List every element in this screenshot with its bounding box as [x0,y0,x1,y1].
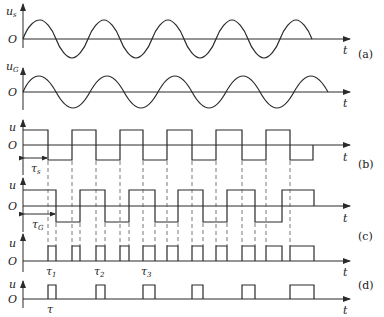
panel-label-b: (b) [358,158,374,171]
time-label-d: t [343,304,348,317]
panel-a-us-axes [23,4,350,48]
ug-axis-label: uG [6,60,19,74]
origin-label-b2: O [8,200,17,213]
u-axis-label-b2: u [9,179,16,192]
u-axis-label-c: u [9,237,16,250]
u-axis-label-b1: u [9,121,16,134]
tau-g-label: τG [32,218,44,232]
time-label-a-us: t [343,44,348,57]
panel-label-c: (c) [358,230,373,243]
origin-label-c: O [8,255,17,268]
pulse-train-d [48,285,314,299]
tau-s-label: τs [31,162,41,176]
panel-label-a: (a) [358,48,373,61]
tau2-label: τ2 [94,265,105,279]
phase-detector-waveform-diagram: us O t uG O t (a) u O t τs (b) u O t τG [0,0,384,317]
tau1-label: τ1 [46,265,57,279]
tau-label: τ [47,303,54,316]
u-axis-label-d: u [9,278,16,291]
panel-a-ug-axes [23,68,350,110]
time-label-a-ug: t [343,97,348,110]
alignment-dashed-lines [48,161,290,246]
tau3-label: τ3 [141,265,152,279]
time-label-c: t [343,266,348,279]
origin-label-a-ug: O [8,86,17,99]
xor-pulse-train-c [48,246,314,261]
time-label-b2: t [343,212,348,225]
panel-label-d: (d) [358,279,374,292]
origin-label-a: O [8,33,17,46]
origin-label-d: O [8,293,17,306]
origin-label-b1: O [8,139,17,152]
time-label-b1: t [343,151,348,164]
us-axis-label: us [6,5,17,19]
